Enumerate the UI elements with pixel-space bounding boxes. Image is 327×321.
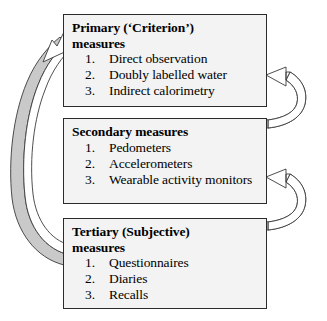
list-item: 2. Accelerometers — [72, 156, 260, 172]
box-secondary-measures: Secondary measures 1. Pedometers 2. Acce… — [63, 118, 267, 204]
list-item-text: Wearable activity monitors — [109, 172, 260, 188]
box-primary-title-line-2: measures — [72, 36, 260, 52]
list-item-text: Direct observation — [109, 51, 260, 67]
box-primary-measures: Primary (‘Criterion’) measures 1. Direct… — [63, 14, 267, 107]
box-secondary-item-list: 1. Pedometers 2. Accelerometers 3. Weara… — [72, 140, 260, 188]
list-item-number: 2. — [85, 67, 109, 83]
list-item-text: Recalls — [109, 287, 260, 303]
list-item: 1. Direct observation — [72, 51, 260, 67]
diagram-canvas: Primary (‘Criterion’) measures 1. Direct… — [0, 0, 327, 321]
list-item: 2. Doubly labelled water — [72, 67, 260, 83]
list-item-text: Indirect calorimetry — [109, 83, 260, 99]
list-item-number: 2. — [85, 156, 109, 172]
list-item-text: Pedometers — [109, 140, 260, 156]
list-item: 3. Recalls — [72, 287, 260, 303]
box-primary-item-list: 1. Direct observation 2. Doubly labelled… — [72, 51, 260, 99]
box-primary-title-line-1: Primary (‘Criterion’) — [72, 20, 260, 36]
list-item-number: 1. — [85, 255, 109, 271]
list-item-text: Accelerometers — [109, 156, 260, 172]
list-item: 3. Wearable activity monitors — [72, 172, 260, 188]
box-primary-title: Primary (‘Criterion’) measures — [72, 20, 260, 51]
box-tertiary-title: Tertiary (Subjective) measures — [72, 224, 260, 255]
list-item-number: 1. — [85, 140, 109, 156]
box-tertiary-measures: Tertiary (Subjective) measures 1. Questi… — [63, 218, 267, 309]
box-tertiary-title-line-2: measures — [72, 240, 260, 256]
list-item-number: 3. — [85, 172, 109, 188]
list-item-number: 1. — [85, 51, 109, 67]
list-item: 2. Diaries — [72, 271, 260, 287]
box-tertiary-item-list: 1. Questionnaires 2. Diaries 3. Recalls — [72, 255, 260, 303]
list-item-text: Questionnaires — [109, 255, 260, 271]
list-item: 3. Indirect calorimetry — [72, 83, 260, 99]
list-item-number: 2. — [85, 271, 109, 287]
list-item-text: Doubly labelled water — [109, 67, 260, 83]
box-tertiary-title-line-1: Tertiary (Subjective) — [72, 224, 260, 240]
arrow-tertiary-to-secondary — [266, 169, 306, 230]
list-item: 1. Questionnaires — [72, 255, 260, 271]
list-item-number: 3. — [85, 83, 109, 99]
arrow-secondary-to-primary — [266, 67, 306, 128]
list-item: 1. Pedometers — [72, 140, 260, 156]
list-item-text: Diaries — [109, 271, 260, 287]
list-item-number: 3. — [85, 287, 109, 303]
box-secondary-title-line-1: Secondary measures — [72, 124, 260, 140]
box-secondary-title: Secondary measures — [72, 124, 260, 140]
